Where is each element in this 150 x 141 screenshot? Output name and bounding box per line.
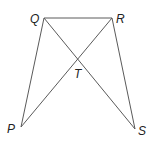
- geometry-diagram: Q R T P S: [0, 0, 150, 141]
- segment-QP: [21, 18, 44, 127]
- segment-QS: [44, 18, 135, 129]
- diagram-svg: Q R T P S: [0, 0, 150, 141]
- label-R: R: [116, 12, 125, 26]
- label-P: P: [7, 122, 15, 136]
- label-S: S: [138, 124, 146, 138]
- segment-RP: [21, 18, 112, 127]
- segment-RS: [112, 18, 135, 129]
- label-T: T: [74, 67, 83, 81]
- label-Q: Q: [30, 12, 39, 26]
